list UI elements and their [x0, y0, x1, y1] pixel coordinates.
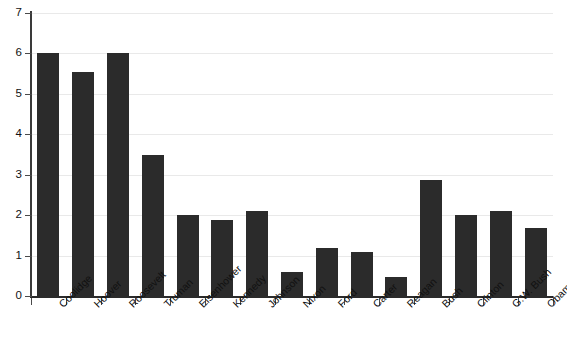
bar — [525, 228, 547, 296]
x-tick-label: G.W. Bush — [510, 302, 518, 310]
bar-chart: 01234567 CoolidgeHooverRooseveltTrumanEi… — [0, 0, 567, 358]
bar — [281, 272, 303, 296]
x-tick-mark — [309, 298, 310, 305]
x-tick-mark — [518, 298, 519, 305]
x-tick-mark — [414, 298, 415, 305]
x-tick-mark — [31, 298, 32, 305]
bar — [107, 53, 129, 296]
x-tick-label: Nixon — [301, 302, 309, 310]
x-tick-label: Obama* — [545, 302, 553, 310]
x-tick-label: Johnson — [266, 302, 274, 310]
bar — [420, 180, 442, 296]
x-tick-mark — [483, 298, 484, 305]
x-tick-mark — [240, 298, 241, 305]
x-tick-mark — [101, 298, 102, 305]
bar — [385, 277, 407, 296]
x-tick-label: Truman — [162, 302, 170, 310]
bar — [246, 211, 268, 296]
bar — [72, 72, 94, 296]
x-tick-label: Coolidge — [57, 302, 65, 310]
x-tick-mark — [66, 298, 67, 305]
x-tick-label: Roosevelt — [127, 302, 135, 310]
x-tick-mark — [135, 298, 136, 305]
x-axis-line — [30, 296, 553, 298]
bar — [490, 211, 512, 296]
x-tick-mark — [170, 298, 171, 305]
x-tick-label: Ford — [336, 302, 344, 310]
bar — [351, 252, 373, 296]
x-tick-mark — [449, 298, 450, 305]
bar — [37, 53, 59, 296]
x-tick-mark — [205, 298, 206, 305]
x-tick-label: Carter — [371, 302, 379, 310]
x-tick-label: Bush — [440, 302, 448, 310]
x-tick-label: Eisenhower — [197, 302, 205, 310]
x-tick-mark — [275, 298, 276, 305]
x-tick-mark — [379, 298, 380, 305]
x-tick-mark — [344, 298, 345, 305]
bar — [177, 215, 199, 296]
y-tick-mark — [25, 296, 32, 297]
bar — [211, 220, 233, 296]
x-tick-label: Clinton — [475, 302, 483, 310]
x-tick-mark — [553, 298, 554, 305]
x-tick-label: Reagan — [405, 302, 413, 310]
bar — [455, 215, 477, 296]
x-tick-label: Kennedy — [231, 302, 239, 310]
x-tick-label: Hoover — [92, 302, 100, 310]
bar — [142, 155, 164, 296]
bar — [316, 248, 338, 296]
bar-series — [0, 13, 567, 296]
